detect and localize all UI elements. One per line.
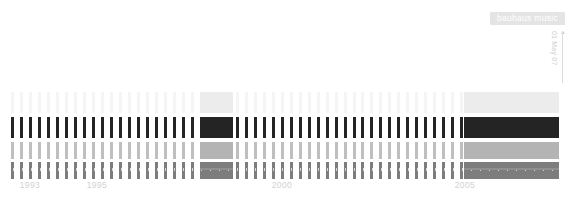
axis-minor-tick	[13, 168, 14, 171]
timeline-tick	[137, 142, 140, 159]
axis-minor-tick	[291, 168, 292, 171]
axis-minor-tick	[462, 168, 463, 171]
timeline-tick	[119, 117, 122, 138]
timeline-tick	[308, 142, 311, 159]
timeline-tick	[263, 92, 266, 113]
timeline-tick	[370, 117, 373, 138]
axis-minor-tick	[264, 168, 265, 171]
axis-minor-tick	[94, 168, 95, 171]
axis-minor-tick	[372, 168, 373, 171]
timeline-tick	[460, 92, 463, 113]
axis-minor-tick	[381, 168, 382, 171]
timeline-tick	[451, 92, 454, 113]
timeline-tick	[236, 92, 239, 113]
timeline-tick	[20, 117, 23, 138]
timeline-tick	[128, 117, 131, 138]
axis-minor-tick	[237, 168, 238, 171]
timeline-tick	[92, 142, 95, 159]
timeline-highlight-block	[200, 92, 234, 113]
timeline-tick	[101, 92, 104, 113]
axis-minor-tick	[318, 168, 319, 171]
timeline-tick	[191, 142, 194, 159]
timeline-tick	[245, 92, 248, 113]
timeline-tick	[173, 117, 176, 138]
axis-minor-tick	[183, 168, 184, 171]
axis-minor-tick	[130, 168, 131, 171]
timeline-row	[0, 142, 573, 159]
axis-minor-tick	[49, 168, 50, 171]
axis-minor-tick	[336, 168, 337, 171]
timeline-tick	[128, 92, 131, 113]
timeline-tick	[451, 142, 454, 159]
axis-minor-tick	[67, 168, 68, 171]
timeline-tick	[182, 142, 185, 159]
timeline-tick	[92, 92, 95, 113]
timeline-tick	[74, 92, 77, 113]
timeline-tick	[335, 142, 338, 159]
timeline-tick	[182, 117, 185, 138]
timeline-row	[0, 92, 573, 113]
timeline-tick	[326, 117, 329, 138]
timeline-tick	[290, 117, 293, 138]
axis-year-label: 1995	[87, 180, 108, 190]
axis-minor-tick	[85, 168, 86, 171]
axis-minor-tick	[58, 168, 59, 171]
timeline-tick	[83, 117, 86, 138]
axis-minor-tick	[31, 168, 32, 171]
timeline-tick	[379, 117, 382, 138]
timeline-tick	[83, 92, 86, 113]
timeline-tick	[388, 117, 391, 138]
timeline-tick	[254, 117, 257, 138]
timeline-tick	[442, 117, 445, 138]
timeline-tick	[370, 142, 373, 159]
timeline-tick	[173, 92, 176, 113]
timeline-tick	[146, 142, 149, 159]
timeline-tick	[263, 142, 266, 159]
timeline-tick	[424, 92, 427, 113]
axis-minor-tick	[363, 168, 364, 171]
timeline-tick	[254, 92, 257, 113]
timeline-tick	[272, 92, 275, 113]
axis-minor-tick	[345, 168, 346, 171]
timeline-tick	[335, 117, 338, 138]
axis-minor-tick	[327, 168, 328, 171]
timeline-tick	[272, 142, 275, 159]
timeline-tick	[424, 117, 427, 138]
timeline-tick	[406, 117, 409, 138]
axis-minor-tick	[255, 168, 256, 171]
timeline-tick	[236, 142, 239, 159]
timeline-tick	[11, 117, 14, 138]
timeline-tick	[146, 117, 149, 138]
timeline-tick	[379, 142, 382, 159]
axis-minor-tick	[192, 168, 193, 171]
timeline-tick	[281, 92, 284, 113]
axis-minor-tick	[148, 168, 149, 171]
axis-minor-tick	[112, 168, 113, 171]
axis-minor-tick	[40, 168, 41, 171]
timeline-tick	[245, 142, 248, 159]
timeline-tick	[38, 92, 41, 113]
timeline-tick	[415, 117, 418, 138]
axis-minor-tick	[435, 168, 436, 171]
timeline-tick	[110, 92, 113, 113]
timeline-tick	[361, 92, 364, 113]
timeline-tick	[65, 142, 68, 159]
axis-year-labels: 1993199520002005	[0, 180, 573, 192]
timeline-tick	[433, 92, 436, 113]
axis-minor-tick	[453, 168, 454, 171]
timeline-tick	[11, 92, 14, 113]
timeline-tick	[164, 92, 167, 113]
timeline-tick	[433, 117, 436, 138]
timeline-tick	[335, 92, 338, 113]
timeline-tick	[191, 117, 194, 138]
axis-minor-tick	[354, 168, 355, 171]
axis-minor-tick	[399, 168, 400, 171]
timeline-tick	[11, 142, 14, 159]
axis-minor-tick	[309, 168, 310, 171]
timeline-tick	[119, 92, 122, 113]
timeline-tick	[164, 142, 167, 159]
timeline-tick	[379, 92, 382, 113]
timeline-tick	[299, 117, 302, 138]
axis-ruler	[0, 168, 573, 176]
timeline-tick	[119, 142, 122, 159]
